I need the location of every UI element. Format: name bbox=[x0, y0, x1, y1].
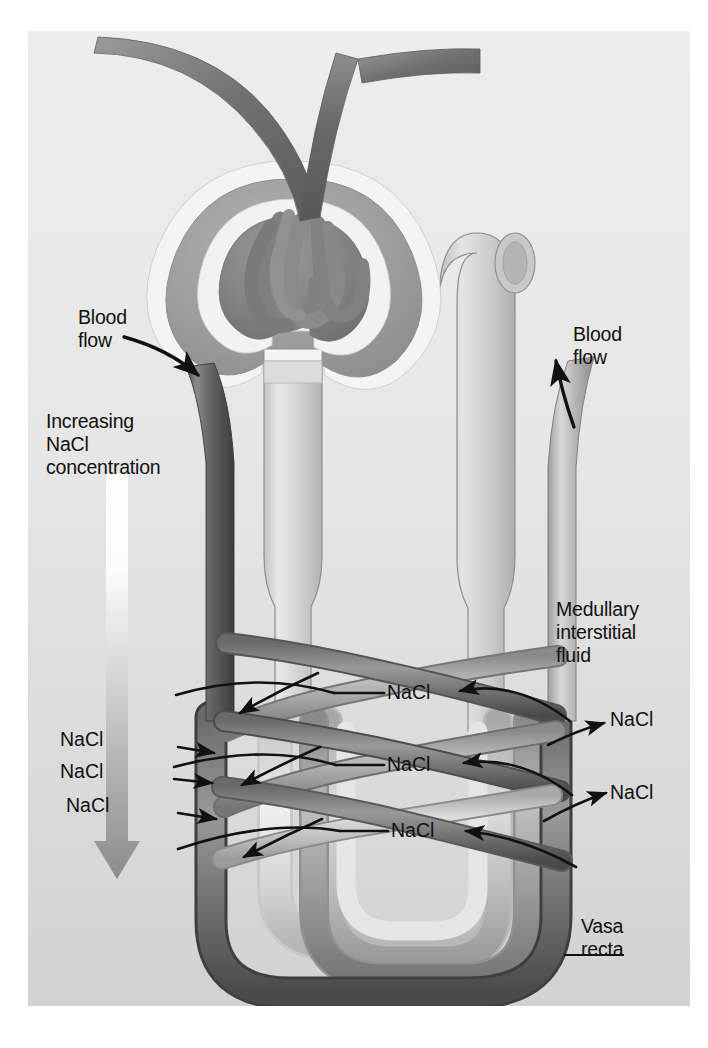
diagram-panel bbox=[28, 31, 690, 1006]
nacl-label-right-1: NaCl bbox=[610, 709, 653, 729]
blood-flow-label-right: Blood flow bbox=[573, 323, 622, 369]
nacl-label-right-2: NaCl bbox=[610, 782, 653, 802]
nephron-vasa-recta-illustration bbox=[28, 31, 690, 1006]
vasa-recta-label: Vasa recta bbox=[581, 915, 623, 961]
nacl-label-left-1: NaCl bbox=[60, 729, 103, 749]
nacl-label-left-3: NaCl bbox=[66, 795, 109, 815]
nacl-label-center-3: NaCl bbox=[391, 820, 434, 840]
medullary-interstitial-fluid-label: Medullary interstitial fluid bbox=[556, 598, 639, 667]
nacl-label-center-2: NaCl bbox=[387, 754, 430, 774]
nacl-label-center-1: NaCl bbox=[387, 682, 430, 702]
figure-root: Blood flow Blood flow Increasing NaCl co… bbox=[0, 0, 708, 1048]
blood-flow-label-left: Blood flow bbox=[78, 306, 127, 352]
increasing-nacl-concentration-label: Increasing NaCl concentration bbox=[46, 410, 160, 479]
nacl-label-left-2: NaCl bbox=[60, 761, 103, 781]
